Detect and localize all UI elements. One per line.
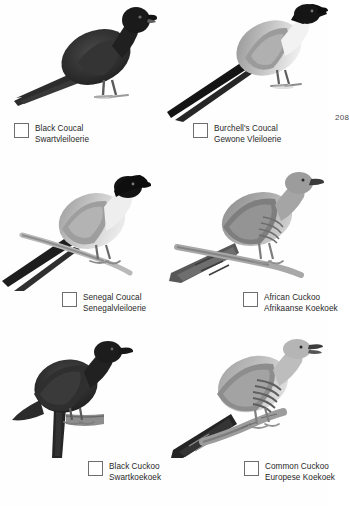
species-name-afrikaans: Gewone Vleiloerie	[214, 134, 281, 145]
species-entry: Black Coucal Swartvleiloerie	[0, 0, 164, 168]
species-name-english: Senegal Coucal	[83, 292, 146, 303]
checkbox-black-coucal[interactable]	[14, 123, 29, 138]
species-name-afrikaans: Europese Koekoek	[265, 472, 335, 483]
species-caption: African Cuckoo Afrikaanse Koekoek	[243, 291, 338, 314]
species-names: Burchell's Coucal Gewone Vleiloerie	[214, 122, 281, 145]
species-entry: Black Cuckoo Swartkoekoek	[0, 338, 164, 506]
checkbox-common-cuckoo[interactable]	[244, 461, 259, 476]
species-names: Black Cuckoo Swartkoekoek	[109, 460, 161, 483]
species-caption: Senegal Coucal Senegalvleiloerie	[62, 291, 146, 314]
species-name-english: Common Cuckoo	[265, 461, 335, 472]
checkbox-senegal-coucal[interactable]	[62, 292, 77, 307]
species-entry: Senegal Coucal Senegalvleiloerie	[0, 169, 164, 337]
bird-illustration-senegal-coucal	[0, 169, 164, 293]
bird-illustration-burchells-coucal	[165, 0, 329, 124]
species-name-english: Burchell's Coucal	[214, 123, 281, 134]
species-names: Common Cuckoo Europese Koekoek	[265, 460, 335, 483]
species-caption: Common Cuckoo Europese Koekoek	[244, 460, 335, 483]
species-name-afrikaans: Senegalvleiloerie	[83, 303, 146, 314]
species-name-english: Black Coucal	[35, 123, 89, 134]
species-names: Senegal Coucal Senegalvleiloerie	[83, 291, 146, 314]
bird-illustration-common-cuckoo	[165, 338, 329, 462]
species-entry: 208 Burchell's Coucal Gewone Vleiloerie	[165, 0, 329, 168]
bird-illustration-black-cuckoo	[0, 338, 164, 462]
checkbox-burchells-coucal[interactable]	[193, 123, 208, 138]
species-name-afrikaans: Swartvleiloerie	[35, 134, 89, 145]
checkbox-african-cuckoo[interactable]	[243, 292, 258, 307]
species-entry: African Cuckoo Afrikaanse Koekoek	[165, 169, 329, 337]
species-names: Black Coucal Swartvleiloerie	[35, 122, 89, 145]
species-name-english: African Cuckoo	[264, 292, 338, 303]
species-caption: Burchell's Coucal Gewone Vleiloerie	[193, 122, 281, 145]
checkbox-black-cuckoo[interactable]	[88, 461, 103, 476]
bird-illustration-black-coucal	[0, 0, 164, 124]
species-name-english: Black Cuckoo	[109, 461, 161, 472]
species-name-afrikaans: Swartkoekoek	[109, 472, 161, 483]
species-names: African Cuckoo Afrikaanse Koekoek	[264, 291, 338, 314]
species-entry: Common Cuckoo Europese Koekoek	[165, 338, 329, 506]
species-caption: Black Coucal Swartvleiloerie	[14, 122, 89, 145]
species-caption: Black Cuckoo Swartkoekoek	[88, 460, 161, 483]
bird-illustration-african-cuckoo	[165, 169, 329, 293]
species-name-afrikaans: Afrikaanse Koekoek	[264, 303, 338, 314]
page-number: 208	[335, 113, 349, 122]
